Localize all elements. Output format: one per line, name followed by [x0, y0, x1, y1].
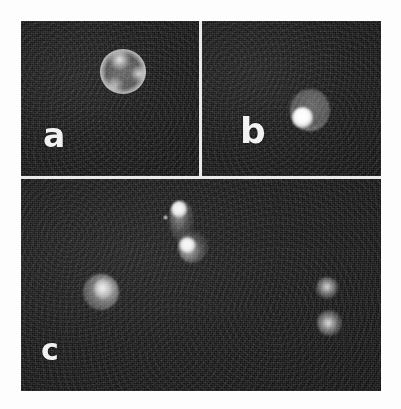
panel-c: c [21, 179, 381, 391]
panel-c-background [21, 179, 381, 391]
panel-b: b [202, 21, 381, 176]
panel-divider-vertical [199, 21, 202, 177]
panel-a: a [21, 21, 199, 176]
panel-b-background [202, 21, 381, 176]
micrograph-plate: a b c [21, 21, 381, 391]
panel-label-b: b [240, 113, 266, 149]
figure-root: a b c [0, 0, 401, 409]
panel-label-a: a [43, 119, 65, 152]
panel-divider-horizontal [21, 176, 381, 179]
panel-label-c: c [41, 335, 59, 365]
